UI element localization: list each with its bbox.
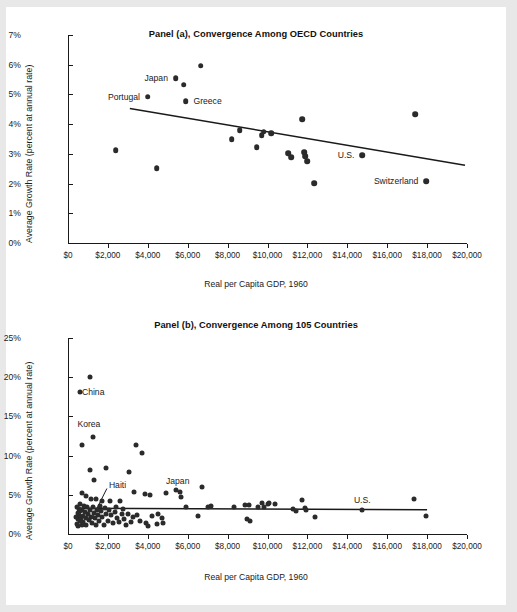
panel-a-y-tick-label: 5%	[0, 89, 21, 99]
panel-b-data-point	[267, 501, 272, 506]
panel-b-data-point	[105, 518, 110, 523]
panel-b-data-point	[195, 513, 200, 518]
panel-b-data-point	[93, 496, 98, 501]
panel-b-data-point	[246, 502, 251, 507]
panel-b-data-point	[121, 517, 126, 522]
panel-b-x-tick	[387, 535, 388, 539]
panel-b-data-point	[294, 509, 299, 514]
panel-a-x-tick-label: $10,000	[253, 251, 283, 260]
panel-b-data-point	[131, 490, 136, 495]
panel-a-y-axis-title: Average Growth Rate (percent at annual r…	[24, 65, 34, 243]
panel-b-x-tick	[427, 535, 428, 539]
panel-b-data-point	[108, 513, 113, 518]
panel-b-x-tick-label: $14,000	[332, 542, 362, 551]
panel-b-y-tick-label: 20%	[0, 372, 21, 382]
panel-a-y-tick-label: 7%	[0, 30, 21, 40]
panel-b-data-point	[103, 465, 108, 470]
panel-b-x-axis-title: Real per Capita GDP, 1960	[6, 572, 506, 582]
panel-b-data-point	[101, 522, 106, 527]
panel-b-x-tick	[268, 535, 269, 539]
panel-b-y-axis-title: Average Growth Rate (percent at annual r…	[24, 362, 34, 540]
panel-b-data-point	[125, 512, 130, 517]
panel-b-chart: Panel (b), Convergence Among 105 Countri…	[6, 312, 506, 605]
panel-a-data-point	[173, 75, 179, 81]
panel-a-x-tick	[188, 244, 189, 248]
panel-b-data-point	[100, 514, 105, 519]
panel-b-x-tick-label: $20,000	[452, 542, 482, 551]
panel-a-y-tick-label: 2%	[0, 179, 21, 189]
panel-a-data-point	[183, 98, 189, 104]
panel-a-x-tick	[228, 244, 229, 248]
panel-b-title: Panel (b), Convergence Among 105 Countri…	[6, 320, 506, 330]
panel-a-data-point	[423, 178, 429, 184]
panel-b-data-point	[91, 478, 96, 483]
panel-a-x-tick-label: $4,000	[135, 251, 160, 260]
panel-a-data-point	[237, 127, 243, 133]
panel-a-x-tick	[387, 244, 388, 248]
panel-b-y-tick-label: 5%	[0, 490, 21, 500]
panel-b-annotation: U.S.	[354, 495, 371, 505]
panel-b-data-point	[107, 499, 112, 504]
panel-a-data-point	[229, 136, 235, 142]
panel-b-data-point	[123, 523, 128, 528]
panel-b-data-point	[199, 484, 204, 489]
panel-b-data-point	[360, 508, 365, 513]
panel-b-x-tick	[228, 535, 229, 539]
panel-a-data-point	[181, 82, 187, 88]
panel-a-data-point	[261, 129, 267, 135]
panel-a-data-point	[145, 94, 151, 100]
panel-a-x-tick	[347, 244, 348, 248]
panel-b-x-tick	[467, 535, 468, 539]
panel-b-data-point	[117, 499, 122, 504]
panel-a-y-tick-label: 6%	[0, 60, 21, 70]
panel-a-data-point	[359, 153, 365, 159]
panel-a-x-tick-label: $0	[63, 251, 72, 260]
panel-b-x-tick-label: $8,000	[215, 542, 240, 551]
panel-a-x-tick-label: $12,000	[293, 251, 323, 260]
panel-b-data-point	[133, 442, 138, 447]
panel-b-y-tick-label: 0%	[0, 529, 21, 539]
panel-a-plot-area: $0$2,000$4,000$6,000$8,000$10,000$12,000…	[68, 35, 467, 243]
panel-a-x-tick	[467, 244, 468, 248]
panel-b-data-point	[163, 490, 168, 495]
panel-a-y-tick-label: 1%	[0, 208, 21, 218]
panel-b-x-tick	[108, 535, 109, 539]
panel-a-point-label: U.S.	[338, 150, 355, 160]
panel-a-y-tick-label: 3%	[0, 149, 21, 159]
panel-b-data-point	[139, 451, 144, 456]
panel-b-data-point	[128, 520, 133, 525]
panel-a-point-label: Switzerland	[374, 176, 418, 186]
panel-a-data-point	[412, 112, 418, 118]
panel-a-data-point	[312, 180, 318, 186]
panel-a-point-label: Portugal	[108, 92, 140, 102]
panel-b-data-point	[119, 511, 124, 516]
panel-a-x-tick-label: $8,000	[215, 251, 240, 260]
panel-a-x-tick	[427, 244, 428, 248]
panel-b-data-point	[208, 503, 213, 508]
panel-b-data-point	[313, 514, 318, 519]
panel-a-data-point	[154, 165, 160, 171]
panel-b-data-point	[412, 497, 417, 502]
panel-b-data-point	[126, 470, 131, 475]
panel-b-data-point	[130, 514, 135, 519]
panel-a-x-tick	[268, 244, 269, 248]
panel-b-data-point	[79, 443, 84, 448]
panel-b-x-tick	[188, 535, 189, 539]
panel-b-data-point	[149, 513, 154, 518]
panel-b-annotation: Haiti	[109, 480, 126, 490]
panel-b-x-tick	[347, 535, 348, 539]
panel-b-data-point	[116, 520, 121, 525]
panel-b-data-point	[137, 519, 142, 524]
panel-b-annotation: Japan	[166, 476, 189, 486]
panel-b-data-point	[424, 513, 429, 518]
panel-b-y-tick-label: 10%	[0, 451, 21, 461]
panel-a-regression-line	[68, 35, 467, 243]
panel-b-x-tick-label: $10,000	[253, 542, 283, 551]
panel-a-x-tick	[108, 244, 109, 248]
panel-b-data-point	[110, 521, 115, 526]
panel-a-data-point	[300, 116, 306, 122]
panel-b-data-point	[159, 515, 164, 520]
panel-b-annotation: China	[82, 387, 104, 397]
panel-b-data-point	[75, 504, 80, 509]
panel-a-x-tick-label: $16,000	[372, 251, 402, 260]
